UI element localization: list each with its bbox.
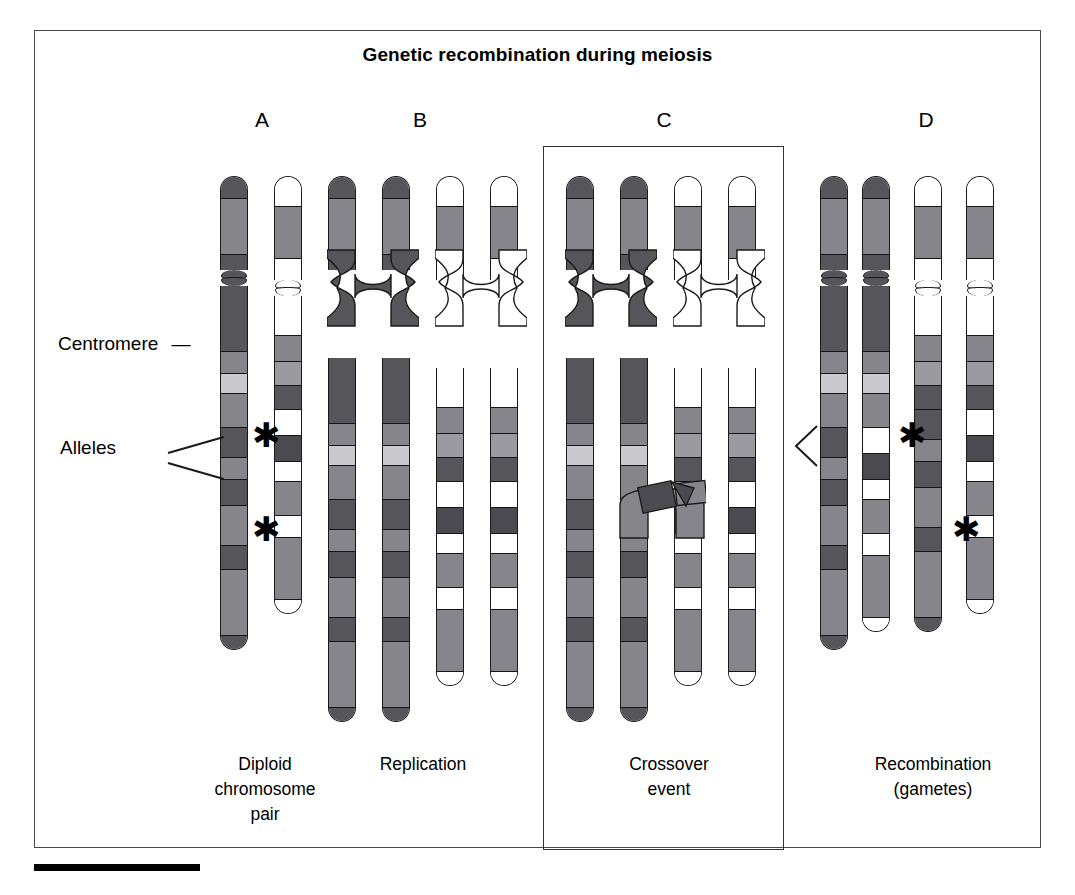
q-arm <box>820 286 848 650</box>
q-arm <box>862 286 890 632</box>
chromosome-band <box>329 578 355 618</box>
chromosome-band <box>675 434 701 458</box>
chromosome-band <box>915 462 941 488</box>
chromosome-band <box>275 177 301 207</box>
centromere <box>220 270 248 286</box>
chromosome-band <box>221 428 247 458</box>
chromosome-band <box>275 296 301 336</box>
caption-d: Recombination(gametes) <box>838 752 1028 802</box>
stage-letter-b: B <box>390 108 450 132</box>
centromere-replicated-maternal <box>565 248 657 328</box>
chromosome-band <box>675 554 701 588</box>
chromosome-band <box>729 508 755 534</box>
q-arm <box>728 368 756 686</box>
chromosome-band <box>329 358 355 424</box>
chromosome-band <box>329 424 355 446</box>
chromosome-band <box>491 508 517 534</box>
centromere <box>820 270 848 286</box>
chromosome-band <box>329 199 355 255</box>
chromosome-band <box>621 446 647 466</box>
caption-c: Crossoverevent <box>594 752 744 802</box>
chromosome-band <box>329 552 355 578</box>
chromosome-band <box>221 199 247 255</box>
chromosome-band <box>821 394 847 428</box>
chromosome-band <box>967 207 993 259</box>
chromosome-band <box>567 177 593 199</box>
gamete-pointer-icon <box>793 424 819 468</box>
chromosome-band <box>221 286 247 352</box>
allele-marker-asterisk: ✱ <box>252 418 281 452</box>
footer-black-bar <box>34 864 200 871</box>
chromosome-band <box>821 506 847 546</box>
caption-line: Diploid <box>190 752 340 777</box>
chromosome-band <box>383 358 409 424</box>
chromosome-band <box>437 554 463 588</box>
chromosome-band <box>383 424 409 446</box>
caption-line: Recombination <box>838 752 1028 777</box>
chromosome-band <box>821 458 847 480</box>
chromosome-band <box>821 255 847 270</box>
chromosome-band <box>437 368 463 408</box>
centromere-replicated-paternal <box>673 248 765 328</box>
centromere-lobe-lower <box>275 287 301 296</box>
chromosome-band <box>967 177 993 207</box>
chromosome-band <box>567 530 593 552</box>
chromosome-band <box>491 554 517 588</box>
chromosome-band <box>967 462 993 482</box>
chromosome-band <box>621 642 647 708</box>
chromosome-band <box>821 570 847 636</box>
chromosome-band <box>567 446 593 466</box>
chromosome-band <box>491 368 517 408</box>
chromosome-band <box>221 546 247 570</box>
chromosome-band <box>821 480 847 506</box>
chromosome-band <box>863 352 889 374</box>
chromosome-band <box>729 368 755 408</box>
chromosome-band <box>621 618 647 642</box>
chromosome-band <box>383 177 409 199</box>
q-arm <box>966 296 994 614</box>
chromosome-band <box>621 358 647 424</box>
centromere <box>862 270 890 286</box>
chromosome-band <box>491 434 517 458</box>
chromosome-band <box>437 482 463 508</box>
chromosome-band <box>491 482 517 508</box>
chromosome-band <box>383 446 409 466</box>
q-arm <box>274 296 302 614</box>
centromere-replicated-paternal <box>435 248 527 328</box>
chromosome-band <box>329 177 355 199</box>
p-arm <box>966 176 994 280</box>
chromosome-band <box>863 374 889 394</box>
chromosome-band <box>621 578 647 618</box>
chromosome-band <box>675 368 701 408</box>
chromosome-band <box>915 207 941 259</box>
chromosome-band <box>329 530 355 552</box>
chromosome-band <box>437 458 463 482</box>
q-arm <box>436 368 464 686</box>
chromosome-band <box>863 480 889 500</box>
chromosome-band <box>383 552 409 578</box>
chromosome-band <box>863 428 889 454</box>
chromosome-band <box>329 500 355 530</box>
chromosome-band <box>621 177 647 199</box>
chromosome-band <box>437 588 463 610</box>
chromosome-band <box>567 618 593 642</box>
chromosome-band <box>863 556 889 618</box>
chromosome-band <box>621 424 647 446</box>
chromosome-band <box>491 588 517 610</box>
chromosome-band <box>383 618 409 642</box>
chromosome-band <box>967 296 993 336</box>
chromosome-band <box>967 336 993 362</box>
p-arm <box>914 176 942 280</box>
chromosome-band <box>329 466 355 500</box>
chromosome-band <box>437 534 463 554</box>
chromosome-band <box>221 506 247 546</box>
chromosome-band <box>275 386 301 410</box>
chromosome-band <box>329 446 355 466</box>
chromosome-band <box>383 500 409 530</box>
chromosome-band <box>567 199 593 255</box>
chromosome-band <box>275 336 301 362</box>
chromosome-band <box>221 394 247 428</box>
chromosome-band <box>567 358 593 424</box>
chromosome-band <box>221 480 247 506</box>
chromosome-band <box>821 428 847 458</box>
